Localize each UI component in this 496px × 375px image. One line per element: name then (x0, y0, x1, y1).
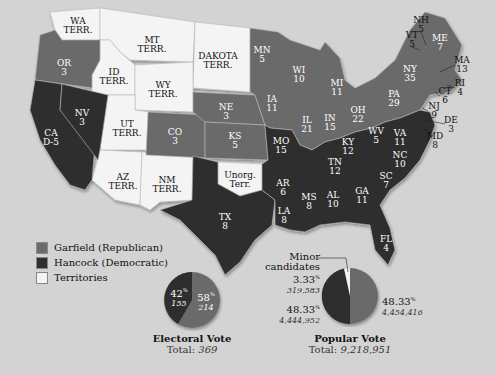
territory-dakota (193, 22, 250, 92)
pv-minor-label: Minorcandidates 3.33%319,583 (262, 252, 320, 296)
territory-wy (135, 62, 193, 112)
state-ne (193, 92, 265, 125)
pv-garfield-label: 48.33%4,454,416 (382, 294, 452, 318)
popular-vote-caption: Popular Vote Total: 9,218,951 (300, 333, 400, 355)
popular-vote-pie (322, 268, 378, 324)
state-ks (205, 122, 268, 160)
territory-az (92, 150, 142, 205)
legend-item-hancock: Hancock (Democratic) (36, 255, 168, 270)
hancock-swatch (36, 257, 48, 269)
pv-hancock-label: 48.33%4,444,952 (262, 302, 320, 326)
legend-item-territories: Territories (36, 270, 168, 285)
territory-swatch (36, 272, 48, 284)
electoral-vote-caption: Electoral Vote Total: 369 (152, 333, 232, 355)
electoral-vote-pie (164, 272, 220, 328)
state-co (146, 112, 205, 158)
territory-nm (140, 152, 193, 210)
legend-item-garfield: Garfield (Republican) (36, 240, 168, 255)
legend: Garfield (Republican) Hancock (Democrati… (36, 240, 168, 285)
us-election-map-1880 (0, 0, 496, 375)
garfield-swatch (36, 242, 48, 254)
